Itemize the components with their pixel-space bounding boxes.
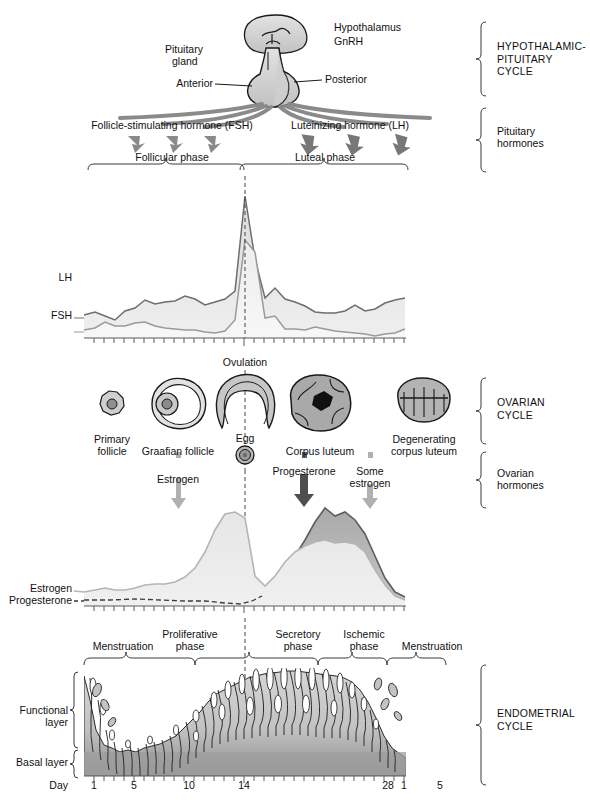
bracket-hypothalamic-pituitary-cycle <box>476 22 486 96</box>
endometrial-cycle-line1: ENDOMETRIAL <box>497 707 575 720</box>
hp-cycle-line2: PITUITARY <box>497 53 586 66</box>
hp-cycle-line1: HYPOTHALAMIC- <box>497 40 586 53</box>
endometrium-illustration <box>70 665 406 783</box>
hp-cycle-line3: CYCLE <box>497 65 586 78</box>
pituitary-gland-label-line1: Pituitary <box>165 44 203 56</box>
bracket-ovarian-hormones <box>476 452 486 508</box>
day-tick-5: 5 <box>131 780 137 792</box>
day-tick-10: 10 <box>183 780 195 792</box>
day-tick-5b: 5 <box>437 780 443 792</box>
phase-label-ischemic-line2: phase <box>350 641 379 653</box>
lh-series-label: LH <box>59 272 72 284</box>
functional-layer-label-line1: Functional <box>20 705 68 717</box>
gonadotropin-axis-ticks <box>94 338 404 346</box>
follicular-phase-label: Follicular phase <box>135 152 209 164</box>
graafian-follicle-label: Graafian follicle <box>142 446 214 458</box>
bracket-label-ovarian-hormones: Ovarian hormones <box>497 467 544 491</box>
anterior-leader <box>215 84 252 86</box>
degenerating-corpus-luteum-label-line1: Degenerating <box>392 434 455 446</box>
fsh-series-label: FSH <box>51 310 72 322</box>
endometrial-cycle-line2: CYCLE <box>497 720 575 733</box>
degenerating-corpus-luteum-label-line2: corpus luteum <box>391 446 457 458</box>
ovarian-cycle-line1: OVARIAN <box>497 396 545 409</box>
ovarian-cycle-line2: CYCLE <box>497 409 545 422</box>
ovarian-hormones-line1: Ovarian <box>497 467 544 479</box>
basal-layer-label: Basal layer <box>16 757 68 769</box>
fsh-label: Follicle-stimulating hormone (FSH) <box>91 120 253 132</box>
bracket-label-hypothalamic-pituitary-cycle: HYPOTHALAMIC- PITUITARY CYCLE <box>497 40 586 78</box>
posterior-leader <box>294 80 322 82</box>
egg-illustration <box>236 446 254 464</box>
egg-label: Egg <box>236 433 255 445</box>
progesterone-arrow-label: Progesterone <box>272 466 335 478</box>
day-axis-label: Day <box>49 780 68 792</box>
phase-label-menstruation-1: Menstruation <box>93 641 154 653</box>
luteal-phase-label: Luteal phase <box>295 152 355 164</box>
primary-follicle-illustration <box>100 391 124 415</box>
functional-layer-bracket <box>70 672 78 748</box>
bracket-pituitary-hormones <box>476 108 486 172</box>
bracket-label-endometrial-cycle: ENDOMETRIAL CYCLE <box>497 707 575 732</box>
bracket-ovarian-cycle <box>476 378 486 444</box>
degenerating-corpus-luteum-illustration <box>398 378 450 422</box>
bracket-label-pituitary-hormones: Pituitary hormones <box>497 125 544 149</box>
gnrh-label: GnRH <box>334 36 363 48</box>
day-tick-1b: 1 <box>401 780 407 792</box>
bracket-endometrial-cycle <box>476 665 486 785</box>
corpus-luteum-illustration <box>291 375 351 431</box>
estrogen-arrow-label: Estrogen <box>157 474 199 486</box>
phase-label-ischemic-line1: Ischemic <box>343 629 384 641</box>
some-estrogen-arrow-label-line1: Some <box>356 466 383 478</box>
posterior-label: Posterior <box>325 74 367 86</box>
bracket-label-ovarian-cycle: OVARIAN CYCLE <box>497 396 545 421</box>
day-tick-28: 28 <box>382 780 394 792</box>
progesterone-arrow <box>294 452 314 507</box>
ovulation-label: Ovulation <box>223 357 267 369</box>
endometrial-phase-bracket <box>84 652 446 665</box>
ovarian-hormones-line2: hormones <box>497 479 544 491</box>
graafian-follicle-illustration <box>152 378 206 428</box>
ovulating-follicle-illustration <box>216 375 274 429</box>
functional-layer-label-line2: layer <box>45 717 68 729</box>
pituitary-gland-illustration <box>248 48 299 107</box>
lh-label: Luteinizing hormone (LH) <box>291 120 409 132</box>
phase-label-proliferative-line2: phase <box>176 641 205 653</box>
gonadotropin-chart <box>74 196 406 346</box>
pituitary-gland-label-line2: gland <box>172 56 198 68</box>
phase-label-secretory-line2: phase <box>284 641 313 653</box>
primary-follicle-label-line1: Primary <box>94 434 130 446</box>
basal-layer-bracket <box>70 750 78 778</box>
anterior-label: Anterior <box>176 78 213 90</box>
phase-label-proliferative-line1: Proliferative <box>162 629 217 641</box>
some-estrogen-arrow-label-line2: estrogen <box>350 478 391 490</box>
hypothalamus-label: Hypothalamus <box>334 22 401 34</box>
corpus-luteum-label: Corpus luteum <box>286 446 354 458</box>
day-tick-1: 1 <box>91 780 97 792</box>
phase-label-secretory-line1: Secretory <box>276 629 321 641</box>
steroid-axis-ticks <box>94 606 404 613</box>
pituitary-hormones-line2: hormones <box>497 137 544 149</box>
primary-follicle-label-line2: follicle <box>97 446 126 458</box>
progesterone-series-label: Progesterone <box>9 595 72 607</box>
menstrual-cycle-figure: Hypothalamus GnRH Pituitary gland Anteri… <box>0 0 590 803</box>
estrogen-series-label: Estrogen <box>30 583 72 595</box>
steroid-chart <box>74 508 406 613</box>
phase-label-menstruation-2: Menstruation <box>402 641 463 653</box>
day-tick-14: 14 <box>238 780 250 792</box>
pituitary-hormones-line1: Pituitary <box>497 125 544 137</box>
